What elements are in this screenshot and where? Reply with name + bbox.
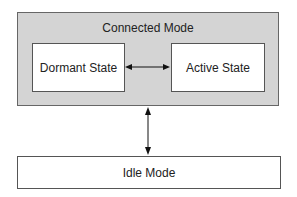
- dormant-state-label: Dormant State: [40, 61, 117, 75]
- idle-mode-label: Idle Mode: [123, 166, 176, 180]
- connected-mode-label: Connected Mode: [18, 21, 278, 35]
- idle-mode-box: Idle Mode: [17, 156, 281, 189]
- connected-idle-arrow: [145, 107, 151, 155]
- active-state-label: Active State: [186, 61, 250, 75]
- active-state-box: Active State: [171, 43, 265, 92]
- dormant-state-box: Dormant State: [32, 43, 125, 92]
